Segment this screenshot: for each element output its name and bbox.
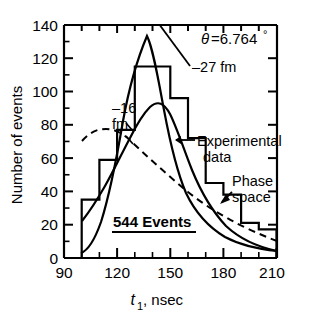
annotation-angle-text: θ xyxy=(201,30,209,47)
annotation-angle-value: =6.764 xyxy=(211,30,257,47)
x-tick-label-210: 210 xyxy=(259,264,285,281)
x-axis-title-units: , nsec xyxy=(143,291,184,308)
annotation-experimental-line2: data xyxy=(203,149,232,165)
x-axis-title-symbol: t xyxy=(131,291,136,308)
annotation-event-count: 544 Events xyxy=(112,213,196,232)
annotation-experimental-line1: Experimental xyxy=(197,133,282,149)
chart-figure: 0 20 40 60 80 100 120 140 90 120 150 180… xyxy=(0,0,310,320)
y-tick-label-140: 140 xyxy=(32,17,58,34)
x-tick-label-150: 150 xyxy=(157,264,183,281)
y-tick-label-80: 80 xyxy=(41,116,59,133)
annotation-27fm: –27 fm xyxy=(192,59,236,75)
y-tick-label-120: 120 xyxy=(32,50,58,67)
y-axis-title: Number of events xyxy=(8,86,25,204)
y-tick-label-60: 60 xyxy=(41,150,59,167)
y-tick-label-40: 40 xyxy=(41,183,59,200)
annotation-phase-space-line2: space xyxy=(232,189,271,205)
x-tick-label-120: 120 xyxy=(104,264,130,281)
x-tick-label-180: 180 xyxy=(210,264,236,281)
y-tick-label-100: 100 xyxy=(32,83,58,100)
x-tick-label-90: 90 xyxy=(55,264,73,281)
annotation-16fm-line2: fm xyxy=(112,116,128,132)
y-tick-label-20: 20 xyxy=(41,216,59,233)
annotation-phase-space-line1: Phase xyxy=(232,173,273,189)
annotation-event-count-text: 544 Events xyxy=(113,213,191,230)
annotation-16fm-line1: –16 xyxy=(112,100,136,116)
annotation-angle-degree-symbol: ° xyxy=(263,28,267,40)
